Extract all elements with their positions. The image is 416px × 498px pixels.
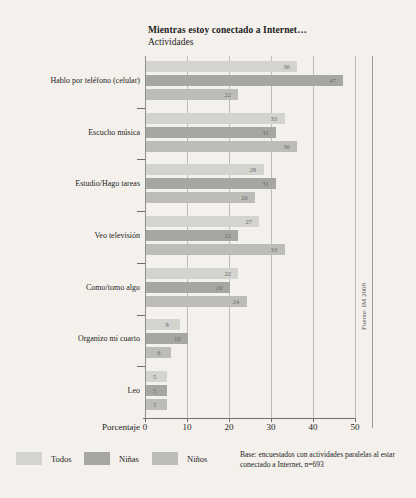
bar-group: 364722 <box>146 61 355 103</box>
bar-group: 8106 <box>146 319 355 361</box>
category-label: Leo <box>128 386 140 395</box>
right-border-rule <box>372 56 373 428</box>
bar-row: 22 <box>146 230 355 241</box>
bar-value-label: 27 <box>245 217 252 226</box>
base-note: Base: encuestados con actividades parale… <box>240 450 408 470</box>
bar-value-label: 26 <box>241 193 248 202</box>
x-axis-title: Porcentaje <box>60 422 140 432</box>
bar-niños <box>146 192 255 203</box>
bar-row: 10 <box>146 333 355 344</box>
gridline-50 <box>355 56 356 418</box>
bar-value-label: 33 <box>271 114 278 123</box>
bar-row: 26 <box>146 192 355 203</box>
bar-group: 555 <box>146 371 355 413</box>
bar-row: 22 <box>146 89 355 100</box>
chart-page: Mientras estoy conectado a Internet… Act… <box>0 0 416 498</box>
bar-value-label: 8 <box>166 320 169 329</box>
category-label: Veo televisión <box>94 231 140 240</box>
bar-value-label: 22 <box>224 90 231 99</box>
x-tick-label: 0 <box>143 422 148 432</box>
bar-row: 5 <box>146 399 355 410</box>
bar-value-label: 20 <box>216 283 223 292</box>
bar-row: 5 <box>146 371 355 382</box>
legend-item-todos[interactable]: Todos <box>16 452 72 465</box>
bar-todos <box>146 164 264 175</box>
bar-row: 6 <box>146 347 355 358</box>
page-title: Mientras estoy conectado a Internet… <box>148 24 398 36</box>
x-tick-label: 30 <box>267 422 276 432</box>
bar-row: 33 <box>146 244 355 255</box>
bar-row: 8 <box>146 319 355 330</box>
bar-row: 20 <box>146 282 355 293</box>
category-label: Hablo por teléfono (celular) <box>50 76 140 85</box>
bar-value-label: 5 <box>153 386 156 395</box>
legend-swatch <box>84 452 110 465</box>
x-axis-ticks: 01020304050 <box>145 418 357 434</box>
legend-label: Todos <box>51 454 72 464</box>
bar-value-label: 6 <box>157 348 160 357</box>
category-tick <box>137 108 145 109</box>
bar-niños <box>146 296 247 307</box>
bar-value-label: 31 <box>262 179 269 188</box>
bar-niñas <box>146 127 276 138</box>
chart-legend: TodosNiñasNiños <box>16 452 216 474</box>
bar-todos <box>146 61 297 72</box>
bar-niñas <box>146 333 188 344</box>
bar-value-label: 22 <box>224 231 231 240</box>
legend-label: Niñas <box>119 454 139 464</box>
category-label: Como/tomo algo <box>86 283 140 292</box>
bar-group: 283126 <box>146 164 355 206</box>
bar-row: 36 <box>146 141 355 152</box>
bar-group: 222024 <box>146 268 355 310</box>
legend-swatch <box>16 452 42 465</box>
category-label: Estudio/Hago tareas <box>75 179 140 188</box>
bar-row: 28 <box>146 164 355 175</box>
x-tick-label: 10 <box>183 422 192 432</box>
bar-niños <box>146 141 297 152</box>
x-tick-label: 50 <box>351 422 360 432</box>
bar-value-label: 22 <box>224 269 231 278</box>
legend-label: Niños <box>187 454 207 464</box>
bar-row: 22 <box>146 268 355 279</box>
bar-row: 47 <box>146 75 355 86</box>
bar-todos <box>146 319 180 330</box>
category-tick <box>137 159 145 160</box>
bar-niñas <box>146 75 343 86</box>
bar-value-label: 36 <box>283 62 290 71</box>
bar-row: 5 <box>146 385 355 396</box>
plot-area: 3647223331362831262722332220248106555 <box>145 56 355 418</box>
x-tick-label: 20 <box>225 422 234 432</box>
bar-row: 27 <box>146 216 355 227</box>
chart-title-block: Mientras estoy conectado a Internet… Act… <box>148 24 398 48</box>
source-note: Fuente: IM 2008 <box>360 283 368 330</box>
bar-value-label: 33 <box>271 245 278 254</box>
bar-todos <box>146 371 167 382</box>
category-label: Escucho música <box>88 128 140 137</box>
category-tick <box>137 366 145 367</box>
category-labels: Hablo por teléfono (celular)Escucho músi… <box>0 56 140 418</box>
bar-group: 333136 <box>146 113 355 155</box>
legend-item-niñas[interactable]: Niñas <box>84 452 139 465</box>
bar-value-label: 47 <box>329 76 336 85</box>
category-tick <box>137 263 145 264</box>
bar-value-label: 31 <box>262 128 269 137</box>
bar-niños <box>146 244 285 255</box>
bar-todos <box>146 216 259 227</box>
bar-todos <box>146 113 285 124</box>
bar-value-label: 24 <box>233 297 240 306</box>
bar-niñas <box>146 178 276 189</box>
bar-row: 33 <box>146 113 355 124</box>
bar-value-label: 5 <box>153 400 156 409</box>
bar-niñas <box>146 385 167 396</box>
bar-value-label: 5 <box>153 372 156 381</box>
category-tick <box>137 315 145 316</box>
bar-row: 36 <box>146 61 355 72</box>
legend-swatch <box>152 452 178 465</box>
bar-value-label: 28 <box>250 165 257 174</box>
bar-value-label: 10 <box>174 334 181 343</box>
legend-item-niños[interactable]: Niños <box>152 452 207 465</box>
page-subtitle: Actividades <box>148 36 398 48</box>
bar-value-label: 36 <box>283 142 290 151</box>
bar-row: 31 <box>146 178 355 189</box>
bar-niños <box>146 399 167 410</box>
